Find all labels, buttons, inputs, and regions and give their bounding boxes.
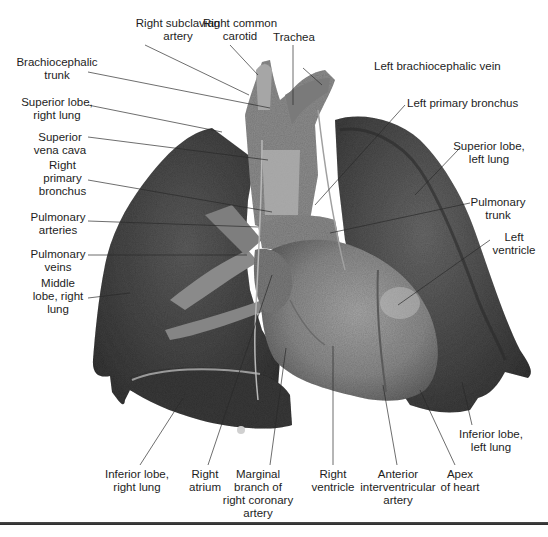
- label-inferior-lobe-right-lung: Inferior lobe,right lung: [92, 468, 182, 494]
- label-left-brachiocephalic-vein: Left brachiocephalic vein: [374, 60, 501, 73]
- label-left-primary-bronchus: Left primary bronchus: [407, 97, 518, 110]
- label-apex-of-heart: Apexof heart: [430, 468, 490, 494]
- label-pulmonary-arteries: Pulmonaryarteries: [22, 211, 94, 237]
- label-trachea: Trachea: [268, 31, 320, 44]
- label-superior-vena-cava: Superiorvena cava: [20, 131, 100, 157]
- label-pulmonary-trunk: Pulmonarytrunk: [462, 196, 534, 222]
- label-inferior-lobe-left-lung: Inferior lobe,left lung: [446, 428, 536, 454]
- label-marginal-branch: Marginalbranch ofright coronaryartery: [212, 468, 304, 520]
- label-brachiocephalic-trunk: Brachiocephalictrunk: [10, 56, 104, 82]
- anatomy-figure: Right subclavianartery Right commoncarot…: [0, 0, 548, 537]
- label-superior-lobe-right-lung: Superior lobe,right lung: [10, 96, 104, 122]
- bottom-rule: [0, 522, 548, 525]
- label-right-primary-bronchus: Rightprimarybronchus: [25, 159, 100, 198]
- label-pulmonary-veins: Pulmonaryveins: [22, 248, 94, 274]
- label-middle-lobe-right-lung: Middlelobe, rightlung: [22, 277, 94, 316]
- label-left-ventricle: Leftventricle: [482, 231, 546, 257]
- label-superior-lobe-left-lung: Superior lobe,left lung: [442, 140, 536, 166]
